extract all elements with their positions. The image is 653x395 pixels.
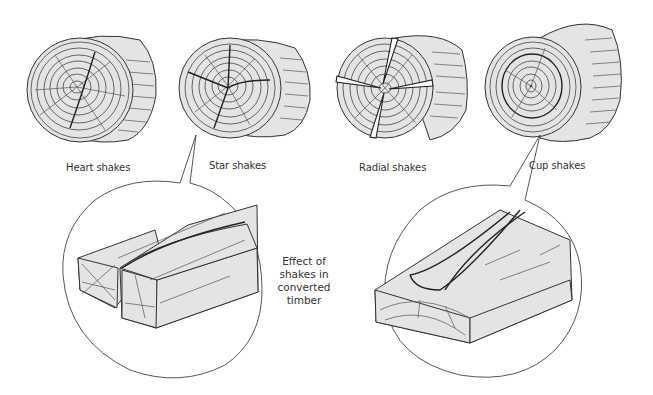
caption-converted-timber: Effect of shakes in converted timber (264, 255, 344, 307)
log-star-shakes (179, 38, 310, 138)
log-heart-shakes (27, 36, 156, 142)
label-heart-shakes: Heart shakes (66, 162, 130, 173)
log-radial-shakes (336, 36, 467, 140)
timber-shakes-diagram: .w { fill: #e4e4e4; stroke: #333; stroke… (0, 0, 653, 395)
label-star-shakes: Star shakes (209, 160, 266, 171)
caption-line: timber (264, 294, 344, 307)
label-radial-shakes: Radial shakes (359, 162, 426, 173)
caption-line: Effect of (264, 255, 344, 268)
log-cup-shakes (485, 24, 621, 141)
label-cup-shakes: Cup shakes (529, 160, 585, 171)
caption-line: converted (264, 281, 344, 294)
caption-line: shakes in (264, 268, 344, 281)
